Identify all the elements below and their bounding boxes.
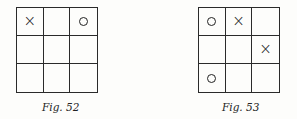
board-cell bbox=[226, 64, 253, 92]
board-cell bbox=[226, 36, 253, 64]
board-cell bbox=[199, 36, 226, 64]
board-cell: × bbox=[226, 8, 253, 36]
o-mark-icon bbox=[207, 17, 216, 26]
board-cell bbox=[252, 8, 279, 36]
o-mark-icon bbox=[79, 17, 88, 26]
o-mark-icon bbox=[207, 74, 216, 83]
board-cell bbox=[70, 64, 97, 92]
figure-caption-53: Fig. 53 bbox=[222, 101, 259, 113]
x-mark-icon: × bbox=[232, 14, 245, 29]
board-cell bbox=[199, 8, 226, 36]
board-cell bbox=[44, 64, 71, 92]
board-cell bbox=[199, 64, 226, 92]
board-cell bbox=[70, 36, 97, 64]
figure-caption-52: Fig. 52 bbox=[42, 101, 79, 113]
board-cell bbox=[44, 36, 71, 64]
board-cell: × bbox=[252, 36, 279, 64]
board-cell bbox=[17, 64, 44, 92]
board-cell bbox=[252, 64, 279, 92]
board-cell bbox=[17, 36, 44, 64]
board-cell bbox=[70, 8, 97, 36]
tic-tac-toe-board-fig-53: ×× bbox=[198, 7, 280, 93]
board-cell: × bbox=[17, 8, 44, 36]
board-cell bbox=[44, 8, 71, 36]
tic-tac-toe-board-fig-52: × bbox=[16, 7, 98, 93]
x-mark-icon: × bbox=[259, 42, 272, 57]
x-mark-icon: × bbox=[24, 14, 37, 29]
